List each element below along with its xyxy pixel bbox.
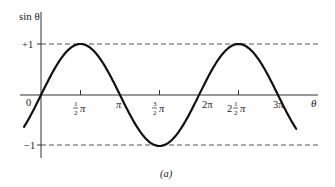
- x-label-pi: π: [116, 99, 122, 110]
- svg-text:π: π: [240, 103, 246, 114]
- figure-caption: (a): [160, 168, 173, 180]
- x-label-two-pi: 2π: [202, 99, 213, 110]
- svg-text:1: 1: [74, 100, 78, 108]
- svg-text:2: 2: [153, 109, 157, 117]
- plus-one-label: +1: [22, 39, 33, 50]
- svg-text:2: 2: [227, 103, 232, 114]
- y-axis-label: sin θ: [19, 10, 40, 22]
- svg-text:1: 1: [234, 100, 238, 108]
- svg-text:3: 3: [153, 100, 157, 108]
- x-label-three-pi: 3π: [273, 99, 284, 110]
- svg-text:π: π: [159, 103, 165, 114]
- minus-one-label: −1: [24, 140, 35, 151]
- svg-text:2: 2: [74, 109, 78, 117]
- x-label-three-halves-pi: 3 2 π: [152, 100, 165, 117]
- svg-text:π: π: [80, 103, 86, 114]
- x-label-two-half-pi: 2 1 2 π: [227, 100, 246, 117]
- origin-label: 0: [26, 97, 31, 108]
- sine-chart: sin θ θ +1 −1 0 1 2 π π 3 2 π 2π 2 1 2 π…: [0, 0, 335, 187]
- x-axis-label: θ: [311, 97, 317, 109]
- x-label-half-pi: 1 2 π: [73, 100, 86, 117]
- svg-text:2: 2: [234, 109, 238, 117]
